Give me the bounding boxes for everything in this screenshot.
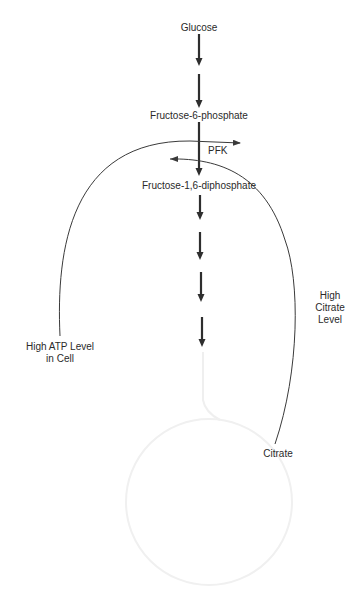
faint-connector-line: [203, 352, 220, 420]
label-pfk: PFK: [208, 145, 227, 157]
arrowhead: [198, 294, 205, 302]
citrate-feedback-arrowhead: [170, 156, 178, 162]
label-high-citrate-line1: High: [315, 290, 344, 302]
pfk-regulation-diagram: [0, 0, 360, 595]
label-high-atp: High ATP Level in Cell: [26, 341, 94, 365]
citrate-feedback-line: [170, 159, 295, 444]
faint-tca-cycle: [126, 352, 292, 585]
arrowhead: [197, 212, 204, 220]
label-high-citrate: High Citrate Level: [315, 290, 344, 326]
label-high-citrate-line2: Citrate: [315, 302, 344, 314]
label-high-atp-line1: High ATP Level: [26, 341, 94, 353]
label-citrate: Citrate: [263, 448, 292, 460]
label-high-citrate-line3: Level: [315, 314, 344, 326]
atp-feedback-line: [59, 141, 240, 336]
arrowhead: [199, 339, 206, 347]
label-fructose-6-phosphate: Fructose-6-phosphate: [150, 110, 248, 122]
arrowhead: [196, 168, 203, 176]
faint-cycle-circle: [126, 419, 292, 585]
label-glucose: Glucose: [181, 22, 218, 34]
arrowhead: [197, 252, 204, 260]
arrowhead: [196, 100, 203, 108]
label-fructose-1-6-diphosphate: Fructose-1,6-diphosphate: [142, 180, 256, 192]
label-high-atp-line2: in Cell: [26, 353, 94, 365]
arrowhead: [196, 58, 203, 66]
